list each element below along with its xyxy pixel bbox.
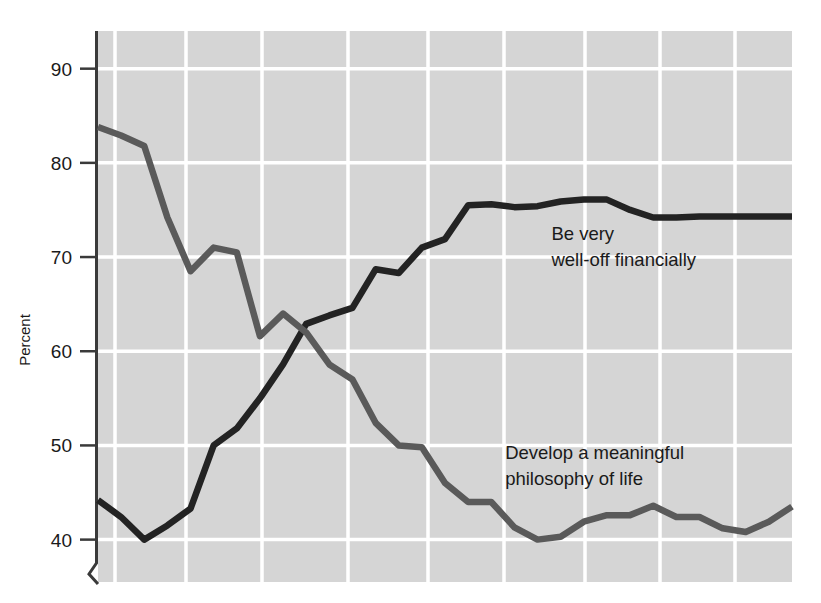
y-tick-label: 50: [51, 435, 72, 456]
y-tick-label: 70: [51, 247, 72, 268]
y-tick-label: 40: [51, 530, 72, 551]
y-tick-label: 60: [51, 341, 72, 362]
axis-break-icon: [89, 556, 98, 584]
series-annotation-label: philosophy of life: [505, 468, 643, 489]
plot-area-background: [98, 31, 792, 582]
y-axis-tick-labels: 405060708090: [51, 59, 72, 551]
y-axis-title: Percent: [16, 313, 33, 366]
y-tick-label: 90: [51, 59, 72, 80]
series-annotation-label: well-off financially: [550, 249, 696, 270]
chart-figure: 405060708090 Percent Be verywell-off fin…: [0, 0, 821, 603]
y-tick-label: 80: [51, 153, 72, 174]
series-annotation-label: Be very: [551, 223, 614, 244]
y-axis-ticks: [80, 69, 97, 540]
line-chart: 405060708090 Percent Be verywell-off fin…: [0, 0, 821, 603]
series-annotation-label: Develop a meaningful: [505, 442, 684, 463]
